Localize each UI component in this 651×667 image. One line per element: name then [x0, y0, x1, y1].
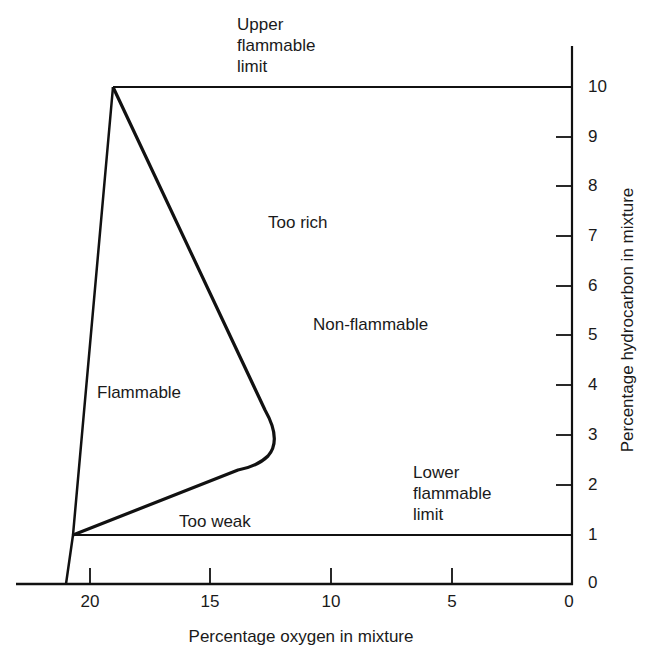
x-tick-label: 5 [447, 592, 456, 612]
x-axis-ticks [90, 568, 452, 584]
upper-flammable-limit-label: Upper flammable limit [237, 14, 315, 77]
non-flammable-label: Non-flammable [313, 314, 428, 335]
y-tick-label: 4 [588, 375, 597, 395]
y-tick-label: 9 [588, 127, 597, 147]
flammable-label: Flammable [97, 382, 181, 403]
y-axis-ticks [556, 137, 572, 485]
x-tick-label: 0 [564, 592, 573, 612]
too-weak-label: Too weak [179, 511, 251, 532]
too-rich-label: Too rich [268, 212, 328, 233]
y-tick-label: 7 [588, 226, 597, 246]
x-tick-label: 15 [201, 592, 220, 612]
y-axis-title: Percentage hydrocarbon in mixture [618, 188, 638, 453]
flammable-envelope-curve [73, 87, 274, 535]
x-axis-title: Percentage oxygen in mixture [189, 627, 414, 647]
x-tick-label: 20 [81, 592, 100, 612]
y-tick-label: 8 [588, 176, 597, 196]
lower-flammable-limit-label: Lower flammable limit [413, 462, 491, 525]
y-tick-label: 3 [588, 425, 597, 445]
y-tick-label: 5 [588, 325, 597, 345]
y-tick-label: 10 [588, 77, 607, 97]
air-dilution-line [66, 87, 113, 584]
x-tick-label: 10 [322, 592, 341, 612]
y-tick-label: 1 [588, 525, 597, 545]
y-tick-label: 0 [588, 573, 597, 593]
y-tick-label: 6 [588, 276, 597, 296]
y-tick-label: 2 [588, 475, 597, 495]
